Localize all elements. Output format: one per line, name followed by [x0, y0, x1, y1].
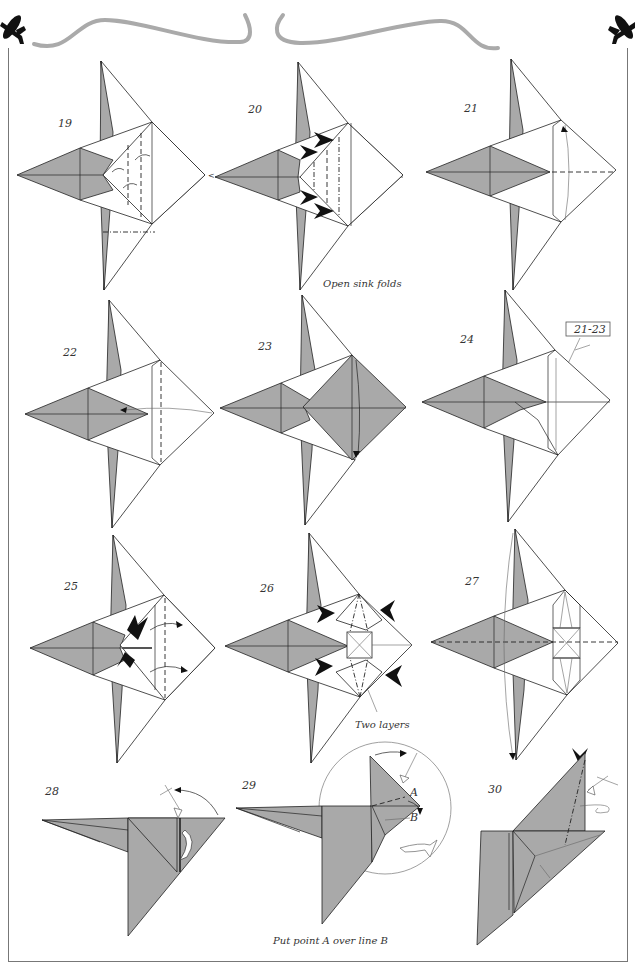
step-26: 26 Two layers	[225, 533, 412, 763]
reference-box-label: 21-23	[573, 323, 606, 336]
step-29: 29 A B	[236, 742, 451, 924]
step-21: 21	[426, 59, 616, 290]
step-30: 30	[477, 748, 618, 945]
step-number: 24	[459, 333, 474, 346]
step-28: 28	[42, 785, 225, 936]
step-25: 25	[30, 535, 215, 763]
step-23: 23	[220, 295, 406, 525]
step-number: 28	[44, 785, 59, 798]
step-number: 21	[463, 102, 478, 115]
point-label-a: A	[409, 786, 418, 799]
svg-text:<: <	[208, 171, 215, 180]
step-27: 27	[431, 529, 618, 760]
step-number: 29	[241, 779, 256, 792]
step-number: 20	[247, 103, 262, 116]
step-number: 30	[488, 783, 502, 796]
step-20: 20 Open sink folds	[215, 62, 403, 290]
step-number: 23	[257, 340, 272, 353]
step-number: 25	[63, 580, 78, 593]
line-label-b: B	[409, 811, 418, 824]
step-number: 19	[58, 117, 72, 130]
diagram-page: 19 < 20	[0, 0, 635, 970]
step-number: 26	[259, 582, 274, 595]
footer-instruction: Put point A over line B	[272, 935, 388, 946]
step-24: 24 21-23	[422, 290, 610, 522]
step-caption: Open sink folds	[323, 278, 402, 289]
step-number: 22	[62, 346, 77, 359]
diagram-steps: 19 < 20	[0, 0, 635, 970]
step-22: 22	[25, 300, 214, 528]
step-caption: Two layers	[355, 719, 410, 730]
step-number: 27	[464, 575, 479, 588]
step-19: 19 <	[17, 61, 215, 290]
